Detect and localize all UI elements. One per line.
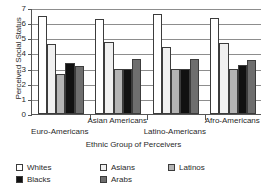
bar <box>114 69 123 114</box>
bar <box>180 69 189 114</box>
bar-group <box>153 9 199 114</box>
bar <box>247 60 256 114</box>
legend-item: Whites <box>16 163 51 172</box>
y-axis-tick <box>28 100 32 101</box>
legend-item: Latinos <box>168 163 205 172</box>
x-axis-title: Ethnic Group of Perceivers <box>0 140 267 149</box>
bar <box>162 47 171 114</box>
y-axis-tick <box>28 9 32 10</box>
bar <box>190 59 199 114</box>
bar <box>171 69 180 114</box>
bar <box>123 69 132 114</box>
bar <box>219 43 228 114</box>
bar <box>132 59 141 114</box>
legend-item: Arabs <box>100 175 132 184</box>
x-axis-tick-label: Asian Americans <box>77 116 157 125</box>
legend-item-label: Whites <box>27 163 51 172</box>
legend-swatch-icon <box>16 164 23 171</box>
bar-group <box>38 9 84 114</box>
legend-item-label: Blacks <box>27 175 51 184</box>
bars-layer <box>32 9 261 114</box>
y-axis-tick <box>28 54 32 55</box>
y-axis-tick-label: 3 <box>22 66 26 74</box>
y-axis-tick-label: 4 <box>22 50 26 58</box>
legend-swatch-icon <box>16 176 23 183</box>
bar <box>95 19 104 114</box>
bar <box>229 69 238 114</box>
y-axis-tick-label: 2 <box>22 81 26 89</box>
y-axis-tick <box>28 24 32 25</box>
bar <box>38 16 47 114</box>
legend-swatch-icon <box>168 164 175 171</box>
y-axis-tick-label: 5 <box>22 35 26 43</box>
legend-item-label: Asians <box>111 163 135 172</box>
x-axis-tick-label: Afro-Americans <box>192 116 267 125</box>
bar <box>47 44 56 114</box>
y-axis-tick <box>28 39 32 40</box>
bar-group <box>95 9 141 114</box>
y-axis-tick <box>28 85 32 86</box>
bar <box>153 14 162 114</box>
legend-item-label: Latinos <box>179 163 205 172</box>
bar <box>65 63 74 114</box>
bar <box>56 74 65 114</box>
legend-item-label: Arabs <box>111 175 132 184</box>
plot-area: 01234567 <box>31 9 261 115</box>
legend-swatch-icon <box>100 176 107 183</box>
x-axis-tick-label: Euro-Americans <box>20 127 100 136</box>
bar-group <box>210 9 256 114</box>
chart-legend: WhitesBlacksAsiansArabsLatinos <box>16 163 256 189</box>
bar <box>210 18 219 114</box>
y-axis-tick-label: 7 <box>22 5 26 13</box>
legend-swatch-icon <box>100 164 107 171</box>
y-axis-tick-label: 6 <box>22 20 26 28</box>
bar <box>104 42 113 114</box>
bar-chart: Perceived Social Status 01234567 Euro-Am… <box>0 0 267 193</box>
y-axis-tick <box>28 70 32 71</box>
legend-item: Asians <box>100 163 135 172</box>
bar <box>238 65 247 114</box>
x-axis-tick-label: Latino-Americans <box>135 127 215 136</box>
legend-item: Blacks <box>16 175 51 184</box>
x-axis-tick-labels: Euro-AmericansAsian AmericansLatino-Amer… <box>0 116 267 140</box>
bar <box>75 66 84 114</box>
y-axis-tick-label: 1 <box>22 96 26 104</box>
